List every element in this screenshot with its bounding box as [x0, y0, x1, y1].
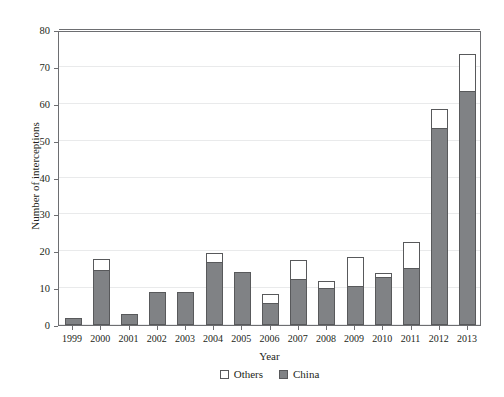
bar-2012[interactable]: [431, 109, 448, 325]
bar-segment-china-2007[interactable]: [290, 279, 307, 325]
bar-2001[interactable]: [121, 314, 138, 325]
bar-segment-others-2008[interactable]: [318, 281, 335, 288]
chart-legend: Others China: [58, 368, 481, 380]
bar-segment-china-2000[interactable]: [93, 270, 110, 325]
y-tick-label-30: 30: [18, 210, 50, 221]
legend-swatch-others-icon: [220, 370, 229, 379]
bar-segment-china-2005[interactable]: [234, 272, 251, 325]
bar-segment-china-2013[interactable]: [459, 91, 476, 325]
bar-2010[interactable]: [375, 273, 392, 325]
x-tick-mark-2001: [129, 326, 130, 330]
bar-segment-others-2006[interactable]: [262, 294, 279, 303]
bar-segment-others-2012[interactable]: [431, 109, 448, 127]
y-tick-mark-50: [54, 142, 58, 143]
bar-2002[interactable]: [149, 292, 166, 325]
legend-label-others: Others: [234, 368, 263, 380]
x-tick-mark-2010: [382, 326, 383, 330]
legend-label-china: China: [293, 368, 319, 380]
gridline-80: [59, 29, 480, 30]
bar-segment-china-1999[interactable]: [65, 318, 82, 325]
y-tick-mark-30: [54, 215, 58, 216]
bar-segment-china-2012[interactable]: [431, 128, 448, 325]
y-tick-label-0: 0: [18, 321, 50, 332]
y-tick-label-80: 80: [18, 26, 50, 37]
x-tick-mark-2004: [213, 326, 214, 330]
bar-2008[interactable]: [318, 281, 335, 325]
x-tick-mark-2006: [270, 326, 271, 330]
y-tick-label-60: 60: [18, 100, 50, 111]
legend-swatch-china-icon: [279, 370, 288, 379]
bar-segment-china-2010[interactable]: [375, 277, 392, 325]
y-tick-label-10: 10: [18, 284, 50, 295]
x-tick-mark-2013: [467, 326, 468, 330]
x-tick-mark-2008: [326, 326, 327, 330]
bar-series-group: [59, 32, 480, 325]
bar-segment-china-2011[interactable]: [403, 268, 420, 325]
bar-segment-china-2006[interactable]: [262, 303, 279, 325]
bar-segment-others-2013[interactable]: [459, 54, 476, 91]
x-tick-mark-2007: [298, 326, 299, 330]
y-tick-label-50: 50: [18, 137, 50, 148]
y-tick-mark-40: [54, 179, 58, 180]
chart-figure: Number of interceptions 0102030405060708…: [0, 0, 504, 397]
x-tick-mark-2011: [411, 326, 412, 330]
y-tick-label-40: 40: [18, 174, 50, 185]
bar-segment-others-2004[interactable]: [206, 253, 223, 262]
bar-2009[interactable]: [347, 257, 364, 325]
bar-segment-others-2009[interactable]: [347, 257, 364, 287]
bar-2006[interactable]: [262, 294, 279, 325]
bar-segment-china-2003[interactable]: [177, 292, 194, 325]
x-axis-ticks: 1999200020012002200320042005200620072008…: [58, 326, 481, 352]
bar-2011[interactable]: [403, 242, 420, 325]
x-tick-mark-2003: [185, 326, 186, 330]
bar-2007[interactable]: [290, 260, 307, 325]
bar-2004[interactable]: [206, 253, 223, 325]
legend-item-china[interactable]: China: [279, 368, 319, 380]
bar-segment-others-2007[interactable]: [290, 260, 307, 278]
bar-segment-china-2004[interactable]: [206, 262, 223, 325]
bar-2000[interactable]: [93, 259, 110, 325]
x-tick-mark-2005: [241, 326, 242, 330]
x-tick-mark-2012: [439, 326, 440, 330]
y-tick-mark-70: [54, 68, 58, 69]
x-tick-mark-2009: [354, 326, 355, 330]
bar-segment-others-2000[interactable]: [93, 259, 110, 270]
plot-area: [58, 31, 481, 326]
bar-1999[interactable]: [65, 318, 82, 325]
x-tick-mark-1999: [72, 326, 73, 330]
bar-segment-china-2008[interactable]: [318, 288, 335, 325]
bar-2005[interactable]: [234, 272, 251, 325]
bar-segment-china-2001[interactable]: [121, 314, 138, 325]
bar-2013[interactable]: [459, 54, 476, 325]
y-tick-mark-80: [54, 31, 58, 32]
x-axis-title: Year: [58, 350, 481, 362]
y-tick-label-70: 70: [18, 63, 50, 74]
x-tick-mark-2002: [157, 326, 158, 330]
bar-segment-china-2009[interactable]: [347, 286, 364, 325]
x-tick-label-2013: 2013: [447, 333, 487, 344]
y-tick-label-20: 20: [18, 247, 50, 258]
bar-segment-others-2011[interactable]: [403, 242, 420, 268]
legend-item-others[interactable]: Others: [220, 368, 263, 380]
y-tick-mark-20: [54, 252, 58, 253]
bar-2003[interactable]: [177, 292, 194, 325]
bar-segment-china-2002[interactable]: [149, 292, 166, 325]
y-tick-mark-10: [54, 289, 58, 290]
x-tick-mark-2000: [100, 326, 101, 330]
y-tick-mark-60: [54, 105, 58, 106]
